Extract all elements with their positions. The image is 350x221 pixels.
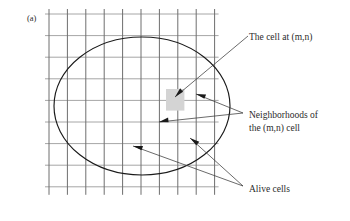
callout-text-neighborhoods-line2: the (m,n) cell xyxy=(249,123,300,134)
callout-text-neighborhoods-line1: Neighborhoods of xyxy=(249,110,319,120)
figure-container: (a) The cell at (m,n) Neighborhoods of t… xyxy=(0,0,350,221)
callout-text-cell-mn: The cell at (m,n) xyxy=(249,32,312,43)
cellular-automaton-diagram: (a) The cell at (m,n) Neighborhoods of t… xyxy=(0,0,350,221)
panel-label-a: (a) xyxy=(27,13,37,23)
callout-text-alive-cells: Alive cells xyxy=(249,184,290,194)
callout-label-alive-cells: Alive cells xyxy=(249,184,290,194)
callout-label-cell-mn: The cell at (m,n) xyxy=(249,32,312,43)
